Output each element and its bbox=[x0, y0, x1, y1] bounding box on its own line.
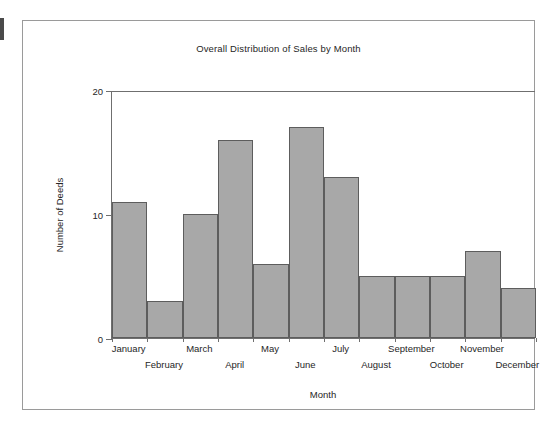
x-tick-mark bbox=[430, 338, 431, 342]
x-tick-mark bbox=[501, 338, 502, 342]
x-tick-label-december: December bbox=[495, 359, 539, 370]
scan-edge-artifact bbox=[0, 18, 4, 40]
x-tick-mark bbox=[536, 338, 537, 342]
x-tick-mark bbox=[112, 338, 113, 342]
y-tick-mark bbox=[106, 91, 111, 92]
x-tick-mark bbox=[147, 338, 148, 342]
bar-july bbox=[324, 177, 359, 338]
y-tick-label: 20 bbox=[92, 86, 103, 97]
bar-june bbox=[289, 127, 324, 338]
bar-series bbox=[112, 91, 535, 338]
x-tick-label-march: March bbox=[186, 343, 212, 354]
bar-september bbox=[395, 276, 430, 338]
x-axis-line bbox=[111, 338, 535, 339]
bar-november bbox=[465, 251, 500, 338]
y-tick-mark bbox=[106, 339, 111, 340]
x-tick-mark bbox=[395, 338, 396, 342]
x-tick-label-may: May bbox=[261, 343, 279, 354]
bar-august bbox=[359, 276, 394, 338]
x-tick-label-november: November bbox=[460, 343, 504, 354]
x-tick-mark bbox=[253, 338, 254, 342]
bar-october bbox=[430, 276, 465, 338]
x-tick-mark bbox=[465, 338, 466, 342]
x-tick-label-june: June bbox=[295, 359, 316, 370]
y-axis-title: Number of Deeds bbox=[54, 178, 65, 252]
plot-area: 01020 bbox=[111, 91, 535, 339]
x-tick-mark bbox=[218, 338, 219, 342]
x-tick-label-september: September bbox=[388, 343, 434, 354]
x-tick-mark bbox=[183, 338, 184, 342]
chart-title: Overall Distribution of Sales by Month bbox=[23, 43, 534, 54]
bar-december bbox=[501, 288, 536, 338]
bar-january bbox=[112, 202, 147, 338]
x-tick-mark bbox=[289, 338, 290, 342]
x-tick-label-april: April bbox=[225, 359, 244, 370]
x-tick-mark bbox=[324, 338, 325, 342]
x-tick-label-october: October bbox=[430, 359, 464, 370]
y-tick-label: 0 bbox=[98, 334, 103, 345]
x-tick-label-february: February bbox=[145, 359, 183, 370]
bar-february bbox=[147, 301, 182, 338]
x-tick-label-july: July bbox=[332, 343, 349, 354]
x-tick-mark bbox=[359, 338, 360, 342]
x-tick-label-august: August bbox=[361, 359, 391, 370]
chart-figure-frame: Overall Distribution of Sales by Month 0… bbox=[22, 20, 535, 410]
x-axis-tick-labels: JanuaryFebruaryMarchAprilMayJuneJulyAugu… bbox=[111, 343, 535, 377]
y-tick-mark bbox=[106, 215, 111, 216]
x-tick-label-january: January bbox=[112, 343, 146, 354]
bar-april bbox=[218, 140, 253, 338]
bar-may bbox=[253, 264, 288, 338]
bar-march bbox=[183, 214, 218, 338]
y-tick-label: 10 bbox=[92, 210, 103, 221]
x-axis-title: Month bbox=[111, 389, 535, 400]
